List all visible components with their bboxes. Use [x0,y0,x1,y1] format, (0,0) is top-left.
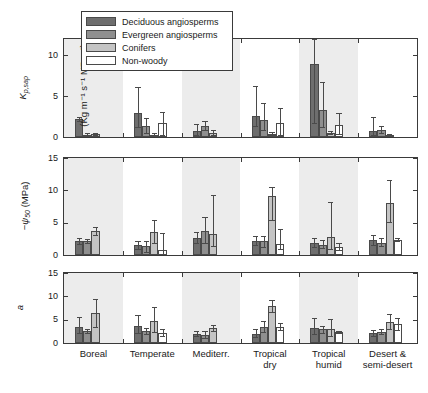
panel-a [63,272,418,344]
error-bar-cap [93,135,98,136]
x-axis-tick [182,133,183,137]
y-axis-tick [64,223,68,224]
error-bar-cap [336,243,341,244]
x-axis-tick [299,39,300,43]
error-bar-cap [85,243,90,244]
y-axis-title-1-symbol: Kp,sap [17,65,29,111]
error-bar-cap [144,241,149,242]
error-bar-line [264,103,265,131]
x-axis-tick [241,133,242,137]
error-bar-cap [77,317,82,318]
error-bar-cap [160,329,165,330]
legend-item: Conifers [86,41,228,54]
x-axis-tick [123,251,124,255]
y-axis-tick-label: 5 [30,315,58,324]
error-bar-cap [387,329,392,330]
error-bar-cap [269,312,274,313]
error-bar-cap [379,329,384,330]
error-bar-line [154,307,155,332]
error-bar-line [323,240,324,248]
x-axis-tick [299,158,300,162]
error-bar-line [314,238,315,247]
error-bar-cap [336,250,341,251]
error-bar-cap [152,220,157,221]
error-bar-line [205,121,206,129]
x-axis-tick [358,339,359,343]
error-bar-cap [253,245,258,246]
error-bar-cap [202,121,207,122]
y-axis-tick-label: 10 [30,51,58,60]
error-bar-cap [211,195,216,196]
error-bar-cap [371,245,376,246]
error-bar-line [256,329,257,337]
error-bar-cap [379,334,384,335]
error-bar-cap [336,333,341,334]
error-bar-cap [93,327,98,328]
error-bar-line [280,229,281,249]
error-bar-cap [202,331,207,332]
error-bar-cap [261,321,266,322]
legend-swatch-conifers [86,43,116,52]
x-axis-tick [123,339,124,343]
error-bar-cap [261,130,266,131]
error-bar-cap [395,318,400,319]
error-bar-cap [312,39,317,40]
error-bar-cap [144,252,149,253]
error-bar-cap [160,336,165,337]
error-bar-cap [387,222,392,223]
error-bar-cap [77,333,82,334]
error-bar-line [272,187,273,220]
error-bar-cap [194,135,199,136]
error-bar-cap [371,235,376,236]
error-bar-line [314,39,315,123]
error-bar-line [197,124,198,135]
x-axis-tick [358,158,359,162]
error-bar-cap [269,220,274,221]
x-axis-tick [358,39,359,43]
y-axis-tick-label: 5 [30,92,58,101]
error-bar-cap [328,249,333,250]
error-bar-cap [312,318,317,319]
error-bar-cap [371,330,376,331]
error-bar-cap [253,126,258,127]
error-bar-cap [328,336,333,337]
y-axis-tick [64,158,68,159]
error-bar-cap [269,132,274,133]
error-bar-cap [320,127,325,128]
y-axis-tick [413,55,417,56]
error-bar-cap [320,326,325,327]
y-axis-tick [64,296,68,297]
error-bar-cap [387,180,392,181]
legend-item: Evergreen angiosperms [86,28,228,41]
y-axis-tick [413,273,417,274]
error-bar-cap [278,330,283,331]
error-bar-cap [371,336,376,337]
error-bar-cap [336,331,341,332]
y-axis-tick-label: 15 [30,269,58,278]
plot-area-3 [64,273,417,343]
error-bar-cap [93,133,98,134]
legend-label-evergreen: Evergreen angiosperms [122,30,218,40]
error-bar-cap [328,202,333,203]
plot-area-2 [64,158,417,255]
y-axis-tick-label: 5 [30,218,58,227]
error-bar-cap [312,247,317,248]
error-bar-line [280,108,281,136]
error-bar-cap [278,108,283,109]
x-axis-tick [299,273,300,277]
error-bar-cap [152,332,157,333]
error-bar-cap [269,135,274,136]
error-bar-cap [395,238,400,239]
x-axis-tick [182,273,183,277]
error-bar-cap [253,337,258,338]
error-bar-cap [152,133,157,134]
error-bar-line [197,232,198,243]
error-bar-cap [194,232,199,233]
error-bar-cap [194,124,199,125]
y-axis-tick [64,273,68,274]
y-axis-tick-label: 0 [30,133,58,142]
error-bar-cap [371,135,376,136]
y-axis-title-3: a [14,293,25,323]
error-bar-line [163,112,164,136]
legend: Deciduous angiosperms Evergreen angiospe… [81,11,233,71]
